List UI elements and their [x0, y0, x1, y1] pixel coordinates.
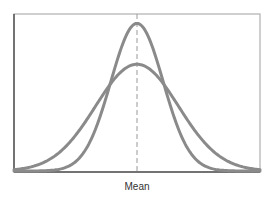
normal-curves-chart — [0, 0, 274, 200]
plot-frame — [14, 14, 260, 172]
x-axis-label: Mean — [0, 181, 274, 192]
